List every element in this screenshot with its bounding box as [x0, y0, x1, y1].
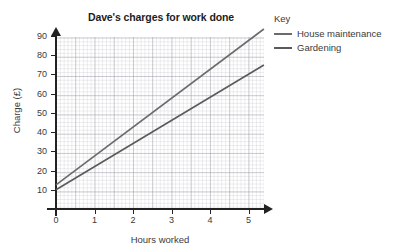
- x-tick-label: 5: [246, 215, 251, 225]
- y-tick-label: 60: [25, 89, 47, 99]
- x-tick-label: 4: [207, 215, 212, 225]
- y-tick-mark: [51, 151, 56, 152]
- y-tick-mark: [51, 74, 56, 75]
- x-tick-mark: [95, 209, 96, 214]
- y-tick-mark: [51, 132, 56, 133]
- legend-item: Gardening: [274, 42, 399, 53]
- legend: Key House maintenanceGardening: [274, 13, 399, 56]
- x-tick-label: 0: [53, 215, 58, 225]
- x-tick-label: 1: [92, 215, 97, 225]
- x-tick-label: 2: [130, 215, 135, 225]
- x-tick-mark: [210, 209, 211, 214]
- y-tick-mark: [51, 113, 56, 114]
- legend-line-icon: [274, 33, 292, 35]
- x-tick-mark: [56, 209, 57, 214]
- y-tick-label: 80: [25, 50, 47, 60]
- legend-item-label: Gardening: [297, 42, 341, 53]
- x-tick-mark: [249, 209, 250, 214]
- legend-item: House maintenance: [274, 28, 399, 39]
- legend-entries: House maintenanceGardening: [274, 28, 399, 53]
- y-tick-label: 20: [25, 166, 47, 176]
- legend-line-icon: [274, 47, 292, 49]
- y-axis-line: [55, 33, 57, 216]
- chart-figure: Dave's charges for work done 012345 1020…: [0, 0, 399, 252]
- y-tick-label: 90: [25, 31, 47, 41]
- plot-area: [56, 37, 264, 209]
- y-axis-title: Charge (£): [11, 66, 22, 156]
- x-axis-line: [47, 208, 269, 210]
- x-tick-label: 3: [169, 215, 174, 225]
- x-axis-title: Hours worked: [56, 234, 264, 245]
- y-tick-label: 50: [25, 108, 47, 118]
- y-tick-mark: [51, 55, 56, 56]
- y-axis-arrow-icon: [51, 27, 61, 36]
- chart-title: Dave's charges for work done: [56, 11, 266, 23]
- y-tick-label: 10: [25, 185, 47, 195]
- x-tick-mark: [133, 209, 134, 214]
- y-tick-mark: [51, 36, 56, 37]
- y-tick-label: 70: [25, 69, 47, 79]
- y-tick-mark: [51, 94, 56, 95]
- legend-title: Key: [274, 13, 399, 24]
- x-tick-mark: [172, 209, 173, 214]
- x-axis-arrow-icon: [264, 204, 273, 214]
- y-tick-mark: [51, 171, 56, 172]
- y-tick-mark: [51, 190, 56, 191]
- y-tick-label: 30: [25, 146, 47, 156]
- y-tick-label: 40: [25, 127, 47, 137]
- legend-item-label: House maintenance: [297, 28, 382, 39]
